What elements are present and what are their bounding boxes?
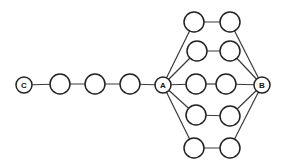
node-r5a — [184, 138, 204, 158]
nodes — [16, 12, 270, 158]
node-r5b — [220, 138, 240, 158]
node-r4a — [186, 105, 206, 125]
node-r2a — [187, 41, 207, 61]
graph-diagram: C A B — [0, 0, 284, 164]
node-label-c: C — [21, 81, 27, 90]
node-r3b — [216, 74, 236, 94]
node-label-a: A — [160, 81, 166, 90]
node-label-b: B — [259, 81, 265, 90]
node-r2b — [220, 41, 240, 61]
node-p3 — [120, 74, 140, 94]
node-r3a — [186, 74, 206, 94]
node-r4b — [220, 106, 240, 126]
node-r1b — [220, 12, 240, 32]
node-p1 — [50, 74, 70, 94]
node-r1a — [184, 12, 204, 32]
node-p2 — [85, 74, 105, 94]
